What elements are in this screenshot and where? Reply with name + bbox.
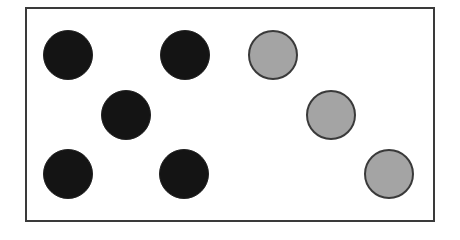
gray-circle — [248, 30, 298, 80]
gray-circle — [364, 149, 414, 199]
black-circle — [43, 30, 93, 80]
black-circle — [160, 30, 210, 80]
gray-circle — [306, 90, 356, 140]
black-circle — [43, 149, 93, 199]
black-circle — [101, 90, 151, 140]
black-circle — [159, 149, 209, 199]
